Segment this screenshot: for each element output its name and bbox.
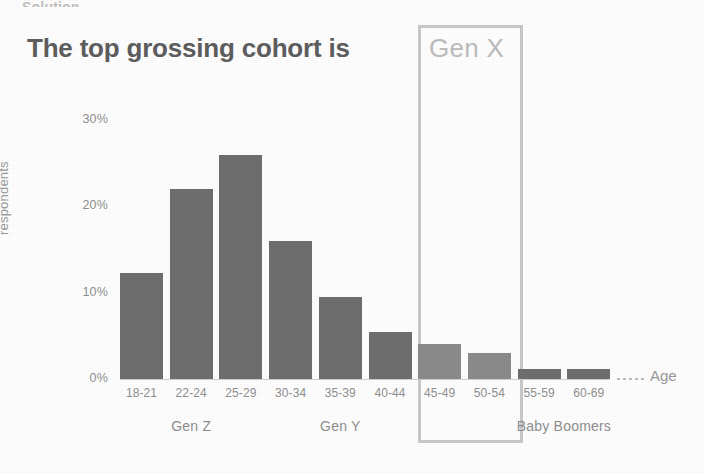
bar-22-24 bbox=[170, 189, 213, 379]
y-axis-title: respondents bbox=[0, 161, 11, 235]
bar-18-21 bbox=[120, 273, 163, 379]
y-axis-tick-label: 30% bbox=[62, 112, 108, 126]
bar-35-39 bbox=[319, 297, 362, 379]
x-axis-title: Age bbox=[650, 367, 677, 384]
slide-canvas: Solution The top grossing cohort is Gen … bbox=[0, 0, 704, 473]
bar-60-69 bbox=[567, 369, 610, 379]
group-label-gen-z: Gen Z bbox=[171, 418, 211, 434]
y-axis-tick-label: 20% bbox=[62, 198, 108, 212]
bar-50-54 bbox=[468, 353, 511, 379]
y-axis-tick-label: 0% bbox=[62, 371, 108, 385]
bar-chart: Age respondents 0%10%20%30%18-2122-2425-… bbox=[0, 0, 704, 473]
x-axis-tick-label: 60-69 bbox=[559, 386, 619, 400]
y-axis-tick-label: 10% bbox=[62, 285, 108, 299]
bar-25-29 bbox=[219, 155, 262, 379]
group-label-gen-y: Gen Y bbox=[320, 418, 360, 434]
bar-30-34 bbox=[269, 241, 312, 379]
bar-45-49 bbox=[418, 344, 461, 379]
x-axis-dotted-extension bbox=[617, 378, 647, 380]
bar-40-44 bbox=[369, 332, 412, 379]
bar-55-59 bbox=[518, 369, 561, 379]
group-label-baby-boomers: Baby Boomers bbox=[517, 418, 611, 434]
x-axis-baseline bbox=[120, 379, 610, 380]
